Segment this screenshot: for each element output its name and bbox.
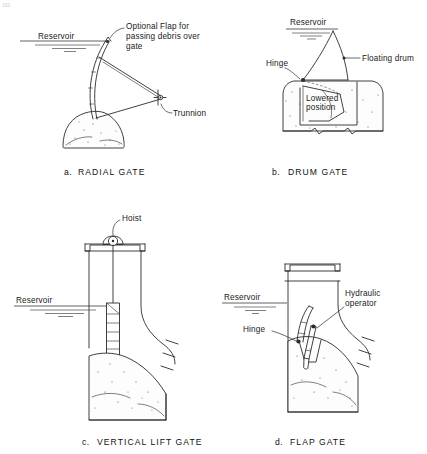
- reservoir-water-line-c: [14, 306, 107, 317]
- caption-letter-a: a.: [64, 167, 72, 177]
- caption-title-a: RADIAL GATE: [78, 167, 145, 177]
- reservoir-water-line-a: [20, 41, 110, 52]
- flap-gate-hinge: [296, 339, 300, 343]
- corner-mark: 331: [2, 2, 11, 8]
- vertical-lift-gate-leaf: [107, 303, 120, 356]
- label-reservoir-b: Reservoir: [290, 18, 327, 27]
- panel-flap-gate: Reservoir: [222, 264, 380, 447]
- callout-optional-flap: Optional Flap for passing debris over ga…: [110, 22, 200, 51]
- caption-title-d: FLAP GATE: [290, 437, 346, 447]
- label-hydraulic-line1: Hydraulic: [345, 289, 380, 298]
- radial-gate-leaf: [89, 42, 110, 119]
- dam-body-c: [89, 251, 175, 364]
- dam-crest-deck-d: [285, 264, 340, 281]
- figure-root: 331 Reservoir: [0, 0, 427, 454]
- foundation-mound-a: [63, 111, 124, 148]
- label-flap-line3: gate: [126, 42, 143, 51]
- foundation-fill-c: [89, 353, 166, 420]
- label-reservoir-d: Reservoir: [224, 293, 261, 302]
- foundation-fill-d: [288, 337, 358, 412]
- label-hinge-d: Hinge: [243, 325, 265, 334]
- caption-letter-b: b.: [272, 167, 280, 177]
- radial-gate-arms: [96, 57, 161, 118]
- caption-title-c: VERTICAL LIFT GATE: [97, 437, 203, 447]
- label-reservoir-c: Reservoir: [16, 296, 53, 305]
- caption-title-b: DRUM GATE: [288, 167, 348, 177]
- label-hinge-b: Hinge: [266, 59, 288, 68]
- reservoir-water-line-d: [222, 303, 287, 314]
- label-lowered-line1: Lowered: [306, 94, 339, 103]
- callout-hinge-b: Hinge: [266, 59, 300, 79]
- caption-letter-c: c.: [82, 437, 90, 447]
- panel-vertical-lift-gate: Reservoir Hoist c. VERTICAL LIFT: [14, 214, 203, 447]
- label-lowered-line2: position: [306, 103, 336, 112]
- label-hoist: Hoist: [122, 214, 142, 223]
- panel-radial-gate: Reservoir: [20, 22, 207, 177]
- caption-letter-d: d.: [275, 437, 283, 447]
- label-reservoir-a: Reservoir: [38, 32, 75, 41]
- callout-hydraulic-operator: Hydraulic operator: [317, 289, 380, 328]
- gate-types-diagram: 331 Reservoir: [0, 0, 427, 454]
- label-flap-line2: passing debris over: [126, 32, 200, 41]
- callout-hoist: Hoist: [113, 214, 142, 235]
- panel-drum-gate: Reservoir: [266, 18, 414, 177]
- floating-drum-raised: [303, 31, 348, 80]
- label-floating-drum: Floating drum: [362, 54, 414, 63]
- callout-trunnion: Trunnion: [161, 104, 207, 118]
- hoist-mechanism: [103, 236, 123, 246]
- label-flap-line1: Optional Flap for: [126, 22, 189, 31]
- label-trunnion: Trunnion: [173, 109, 207, 118]
- callout-floating-drum: Floating drum: [343, 54, 415, 63]
- label-hydraulic-line2: operator: [345, 299, 377, 308]
